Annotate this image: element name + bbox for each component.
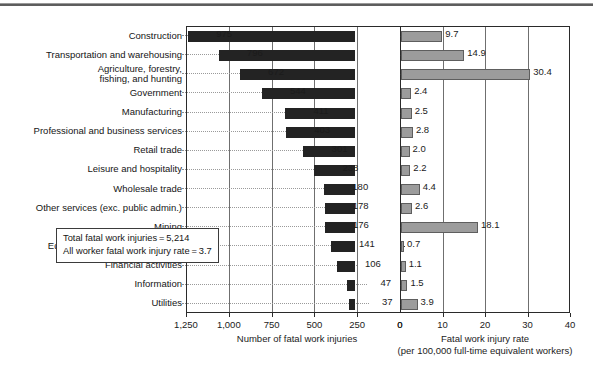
xtick-left-250 bbox=[357, 313, 358, 317]
figure-container: ConstructionTransportation and warehousi… bbox=[0, 10, 593, 366]
chart-row: 4112.5 bbox=[187, 104, 569, 123]
bar-injury-rate bbox=[401, 127, 413, 138]
category-connector bbox=[182, 112, 186, 113]
value-label-rate: 2.6 bbox=[415, 200, 428, 211]
value-label-rate: 14.9 bbox=[467, 47, 486, 58]
value-leader-line bbox=[187, 169, 334, 170]
value-label-count: 301 bbox=[323, 143, 347, 154]
value-label-count: 47 bbox=[367, 277, 391, 288]
chart-row: 373.9 bbox=[187, 295, 569, 314]
xtick-label-right: 30 bbox=[522, 319, 533, 330]
chart-row: 2382.2 bbox=[187, 161, 569, 180]
chart-row: 9759.7 bbox=[187, 27, 569, 46]
bar-injury-rate bbox=[401, 165, 410, 176]
value-label-count: 544 bbox=[282, 85, 306, 96]
value-label-count: 796 bbox=[239, 47, 263, 58]
value-label-rate: 2.4 bbox=[414, 85, 427, 96]
xtick-label-left: 250 bbox=[349, 319, 365, 330]
value-label-count: 37 bbox=[369, 296, 393, 307]
value-label-count: 975 bbox=[208, 28, 232, 39]
xtick-right-10 bbox=[443, 313, 444, 317]
category-connector bbox=[182, 188, 186, 189]
bar-injuries-count bbox=[262, 88, 355, 99]
category-label-line: Information bbox=[134, 279, 182, 289]
category-label: Other services (exc. public admin.) bbox=[36, 203, 182, 213]
category-label: Agriculture, forestry,fishing, and hunti… bbox=[98, 64, 182, 84]
category-label: Wholesale trade bbox=[113, 184, 182, 194]
category-connector bbox=[182, 92, 186, 93]
category-connector bbox=[182, 54, 186, 55]
value-label-rate: 1.1 bbox=[409, 258, 422, 269]
chart-row: 471.5 bbox=[187, 276, 569, 295]
left-axis-title: Number of fatal work injuries bbox=[237, 333, 357, 344]
chart-row: 4032.8 bbox=[187, 123, 569, 142]
xtick-left-750 bbox=[272, 313, 273, 317]
bar-injury-rate bbox=[401, 69, 530, 80]
value-leader-line bbox=[187, 303, 369, 304]
category-connector bbox=[182, 265, 186, 266]
value-label-count: 176 bbox=[345, 219, 369, 230]
bar-injury-rate bbox=[401, 146, 410, 157]
category-label-line: fishing, and hunting bbox=[98, 74, 182, 84]
bar-injury-rate bbox=[401, 280, 407, 291]
bar-injury-rate bbox=[401, 108, 412, 119]
chart-row: 1782.6 bbox=[187, 199, 569, 218]
category-label: Information bbox=[134, 279, 182, 289]
bar-injury-rate bbox=[401, 50, 464, 61]
xtick-label-left: 500 bbox=[306, 319, 322, 330]
category-label-line: Transportation and warehousing bbox=[46, 50, 182, 60]
bar-injury-rate bbox=[401, 184, 420, 195]
xtick-right-40 bbox=[570, 313, 571, 317]
category-connector bbox=[182, 73, 186, 74]
xtick-label-right: 40 bbox=[565, 319, 576, 330]
value-label-rate: 18.1 bbox=[481, 219, 500, 230]
category-label-line: Utilities bbox=[151, 298, 182, 308]
value-label-rate: 30.4 bbox=[533, 66, 552, 77]
xtick-left-1250 bbox=[186, 313, 187, 317]
value-label-rate: 3.9 bbox=[421, 296, 434, 307]
right-axis-title-line1: Fatal work injury rate bbox=[441, 333, 529, 344]
chart-row: 1410.7 bbox=[187, 237, 569, 256]
bar-injuries-count bbox=[349, 299, 355, 310]
bar-injuries-count bbox=[347, 280, 355, 291]
value-label-rate: 1.5 bbox=[410, 277, 423, 288]
bar-injury-rate bbox=[401, 203, 412, 214]
value-leader-line bbox=[187, 284, 367, 285]
category-label: Leisure and hospitality bbox=[87, 164, 182, 174]
xtick-left-500 bbox=[314, 313, 315, 317]
category-connector bbox=[182, 284, 186, 285]
value-label-rate: 0.7 bbox=[407, 238, 420, 249]
xtick-label-right: 20 bbox=[480, 319, 491, 330]
category-label-line: Construction bbox=[129, 31, 182, 41]
category-connector bbox=[182, 150, 186, 151]
xtick-label-left: 1,000 bbox=[217, 319, 241, 330]
value-label-count: 141 bbox=[351, 238, 375, 249]
value-label-rate: 2.2 bbox=[413, 162, 426, 173]
value-label-rate: 4.4 bbox=[423, 181, 436, 192]
bar-injuries-count bbox=[240, 69, 355, 80]
category-label: Government bbox=[130, 88, 182, 98]
category-label: Professional and business services bbox=[34, 126, 182, 136]
xtick-label-right: 0 bbox=[397, 319, 402, 330]
value-leader-line bbox=[187, 188, 344, 189]
category-connector bbox=[182, 169, 186, 170]
value-label-rate: 2.0 bbox=[413, 143, 426, 154]
annotation-box: Total fatal work injuries = 5,214 All wo… bbox=[56, 228, 219, 263]
value-label-count: 178 bbox=[345, 200, 369, 211]
category-connector bbox=[182, 207, 186, 208]
right-axis-title-line2: (per 100,000 full-time equivalent worker… bbox=[398, 345, 573, 356]
category-label: Manufacturing bbox=[122, 107, 182, 117]
xtick-label-right: 10 bbox=[437, 319, 448, 330]
chart-row: 1061.1 bbox=[187, 257, 569, 276]
value-label-count: 411 bbox=[305, 105, 329, 116]
chart-row: 3012.0 bbox=[187, 142, 569, 161]
category-connector bbox=[182, 303, 186, 304]
category-label-line: Other services (exc. public admin.) bbox=[36, 203, 182, 213]
category-connector bbox=[182, 35, 186, 36]
category-label-line: Government bbox=[130, 88, 182, 98]
annotation-line-total: Total fatal work injuries = 5,214 bbox=[63, 232, 212, 245]
category-label: Transportation and warehousing bbox=[46, 50, 182, 60]
value-label-count: 238 bbox=[334, 162, 358, 173]
chart-row: 79614.9 bbox=[187, 46, 569, 65]
xtick-label-left: 1,250 bbox=[174, 319, 198, 330]
